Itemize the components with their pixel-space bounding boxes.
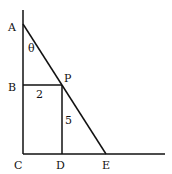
label-b: B [8, 81, 16, 94]
geometry-diagram: A θ B P 2 5 C D E [0, 0, 172, 174]
label-theta: θ [28, 42, 35, 55]
label-a: A [7, 21, 17, 34]
label-d: D [56, 159, 65, 172]
label-c: C [14, 159, 22, 172]
label-bp-length: 2 [36, 88, 43, 101]
label-p: P [64, 72, 72, 85]
label-e: E [102, 159, 110, 172]
label-pd-length: 5 [65, 114, 72, 127]
